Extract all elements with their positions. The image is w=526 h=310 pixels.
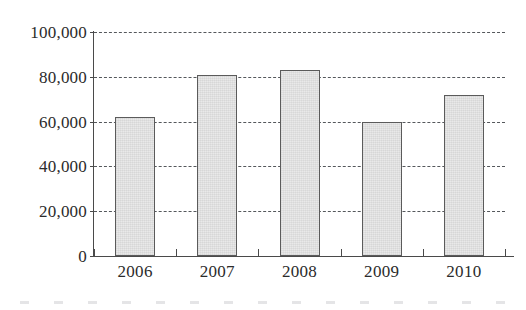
gridline	[94, 32, 505, 33]
x-axis-tick-label-2010: 2010	[446, 263, 481, 280]
bar-2009	[362, 122, 402, 256]
y-tick-mark	[90, 166, 94, 167]
x-axis-line	[93, 256, 514, 257]
y-axis-tick-label: 100,000	[30, 24, 87, 41]
x-tick-mark	[423, 249, 424, 257]
bar-2007	[197, 75, 237, 256]
y-tick-mark	[90, 122, 94, 123]
x-axis-tick-label-2008: 2008	[282, 263, 317, 280]
plot-area: 020,00040,00060,00080,000100,000	[94, 32, 505, 256]
y-axis-tick-label: 20,000	[39, 203, 87, 220]
x-axis-tick-label-2009: 2009	[364, 263, 399, 280]
x-axis-tick-label-2007: 2007	[200, 263, 235, 280]
bar-2006	[115, 117, 155, 256]
x-tick-mark	[505, 249, 506, 257]
x-axis-tick-label-2006: 2006	[117, 263, 152, 280]
y-tick-mark	[90, 211, 94, 212]
y-axis-tick-label: 0	[78, 248, 87, 265]
x-tick-mark	[176, 249, 177, 257]
y-tick-mark	[90, 32, 94, 33]
x-tick-mark	[94, 249, 95, 257]
x-tick-mark	[258, 249, 259, 257]
y-axis-tick-label: 80,000	[39, 68, 87, 85]
y-axis-tick-label: 60,000	[39, 113, 87, 130]
x-tick-mark	[341, 249, 342, 257]
y-tick-mark	[90, 77, 94, 78]
bar-2008	[280, 70, 320, 256]
scan-artifact	[20, 301, 512, 304]
bar-2010	[444, 95, 484, 256]
y-axis-tick-label: 40,000	[39, 158, 87, 175]
bar-chart: 020,00040,00060,00080,000100,000 2006200…	[0, 0, 526, 310]
